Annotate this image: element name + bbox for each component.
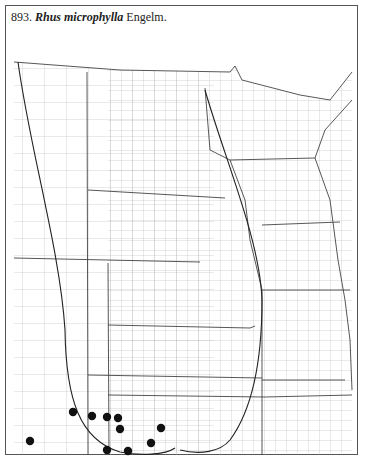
record-dot <box>103 446 111 454</box>
record-dot <box>147 439 155 447</box>
record-dot <box>116 425 124 433</box>
record-dot <box>124 447 132 455</box>
distribution-map <box>0 0 366 460</box>
record-dot <box>88 412 96 420</box>
record-dot <box>114 414 122 422</box>
record-dot <box>69 408 77 416</box>
record-dot <box>103 413 111 421</box>
record-dot <box>157 424 165 432</box>
record-dot <box>26 437 34 445</box>
